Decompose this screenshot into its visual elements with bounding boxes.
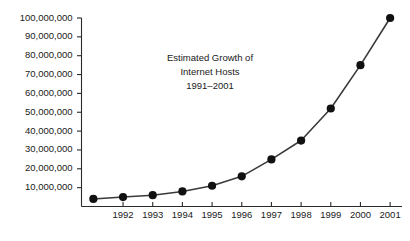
data-point-marker [356,61,364,69]
y-axis-tick-label: 70,000,000 [25,68,73,79]
y-axis-tick-label: 60,000,000 [25,87,73,98]
series-line-internet-hosts [93,18,390,199]
line-chart-plot: 10,000,00020,000,00030,000,00040,000,000… [0,0,410,241]
x-axis-tick-label: 1992 [112,209,133,220]
chart-title-line: 1991–2001 [186,80,234,91]
x-axis-tick-label: 1999 [320,209,341,220]
x-axis-tick-labels: 1992199319941995199619971998199920002001 [112,209,400,220]
y-axis-tick-label: 50,000,000 [25,106,73,117]
chart-title-line: Estimated Growth of [167,52,253,63]
x-axis-tick-label: 1997 [261,209,282,220]
data-point-marker [238,172,246,180]
x-axis-tick-label: 1993 [142,209,163,220]
x-axis-tick-label: 1996 [231,209,252,220]
y-axis-tick-labels: 10,000,00020,000,00030,000,00040,000,000… [20,12,73,193]
x-axis-tick-label: 2001 [380,209,401,220]
chart-figure: 10,000,00020,000,00030,000,00040,000,000… [0,0,410,241]
data-point-marker [386,14,394,22]
data-point-marker [149,191,157,199]
series-markers [89,14,394,203]
data-point-marker [208,182,216,190]
data-point-marker [178,187,186,195]
y-axis-tick-label: 90,000,000 [25,30,73,41]
data-point-marker [119,193,127,201]
x-axis-tick-label: 1998 [291,209,312,220]
y-axis-tick-label: 20,000,000 [25,162,73,173]
y-axis-tick-label: 30,000,000 [25,143,73,154]
x-axis-tick-label: 1994 [172,209,193,220]
y-axis-tick-label: 100,000,000 [20,12,73,23]
chart-title: Estimated Growth ofInternet Hosts1991–20… [167,52,253,91]
y-axis-tick-label: 40,000,000 [25,125,73,136]
data-point-marker [89,195,97,203]
x-axis-tick-label: 1995 [202,209,223,220]
data-point-marker [327,104,335,112]
y-axis-tick-label: 80,000,000 [25,49,73,60]
data-point-marker [267,155,275,163]
y-axis-tick-marks [77,18,82,188]
x-axis-tick-marks [123,202,390,207]
x-axis-tick-label: 2000 [350,209,371,220]
data-point-marker [297,136,305,144]
y-axis-tick-label: 10,000,000 [25,181,73,192]
chart-title-line: Internet Hosts [180,66,239,77]
